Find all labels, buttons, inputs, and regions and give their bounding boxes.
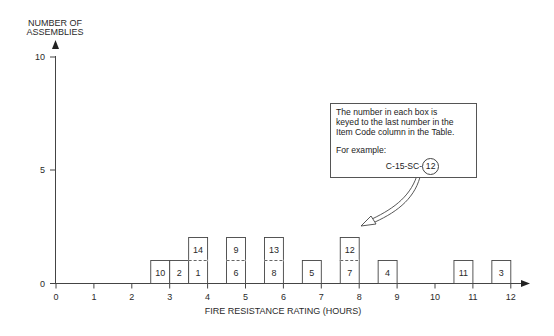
x-tick-label: 1 <box>91 292 96 302</box>
data-box: 7 <box>340 261 359 284</box>
annotation-callout: The number in each box is keyed to the l… <box>330 103 477 178</box>
data-box: 1 <box>189 261 208 284</box>
example-prefix: C-15-SC- <box>386 161 422 171</box>
callout-arrow <box>361 172 421 226</box>
x-tick-label: 2 <box>129 292 134 302</box>
x-axis-label: FIRE RESISTANCE RATING (HOURS) <box>205 306 362 316</box>
y-ticks: 10 5 0 <box>35 52 55 289</box>
box-label: 7 <box>347 268 352 278</box>
data-box: 6 <box>227 261 246 284</box>
x-tick-label: 5 <box>243 292 248 302</box>
box-label: 9 <box>234 245 239 255</box>
x-tick-label: 4 <box>205 292 210 302</box>
x-ticks: 0123456789101112 <box>53 284 515 302</box>
box-label: 5 <box>309 268 314 278</box>
x-axis-arrow-icon <box>521 280 530 287</box>
box-label: 13 <box>269 245 279 255</box>
y-tick-label: 10 <box>35 52 45 62</box>
y-tick-label: 5 <box>40 165 45 175</box>
annotation-line: The number in each box is <box>336 107 471 117</box>
annotation-example-label: For example: <box>336 145 471 155</box>
data-box: 14 <box>189 238 208 261</box>
box-label: 8 <box>271 268 276 278</box>
x-tick-label: 12 <box>506 292 516 302</box>
data-box: 9 <box>227 238 246 261</box>
box-label: 10 <box>155 268 165 278</box>
data-box: 8 <box>264 261 283 284</box>
x-tick-label: 3 <box>167 292 172 302</box>
data-box: 5 <box>302 261 321 284</box>
data-box: 11 <box>454 261 473 284</box>
x-tick-label: 0 <box>53 292 58 302</box>
box-label: 6 <box>234 268 239 278</box>
data-box: 13 <box>264 238 283 261</box>
annotation-example: C-15-SC-12 <box>336 158 471 175</box>
box-label: 4 <box>385 268 390 278</box>
box-label: 14 <box>193 245 203 255</box>
data-box: 12 <box>340 238 359 261</box>
x-tick-label: 9 <box>395 292 400 302</box>
x-tick-label: 7 <box>319 292 324 302</box>
box-label: 2 <box>177 268 182 278</box>
arrow-head-icon <box>361 216 376 226</box>
x-tick-label: 11 <box>468 292 477 302</box>
x-tick-label: 10 <box>430 292 440 302</box>
y-tick-label: 0 <box>40 279 45 289</box>
data-boxes: 1021146981357124113 <box>151 238 511 284</box>
x-tick-label: 6 <box>281 292 286 302</box>
data-box: 10 <box>151 261 170 284</box>
box-label: 1 <box>196 268 201 278</box>
box-label: 3 <box>499 268 504 278</box>
data-box: 2 <box>170 261 189 284</box>
circled-number: 12 <box>422 158 439 175</box>
box-label: 12 <box>345 245 355 255</box>
x-tick-label: 8 <box>357 292 362 302</box>
box-label: 11 <box>459 268 468 278</box>
y-axis-label-line2: ASSEMBLIES <box>26 27 83 37</box>
annotation-line: keyed to the last number in the <box>336 117 471 127</box>
annotation-line: Item Code column in the Table. <box>336 127 471 137</box>
y-axis-arrow-icon <box>52 40 59 49</box>
data-box: 4 <box>378 261 397 284</box>
data-box: 3 <box>492 261 511 284</box>
